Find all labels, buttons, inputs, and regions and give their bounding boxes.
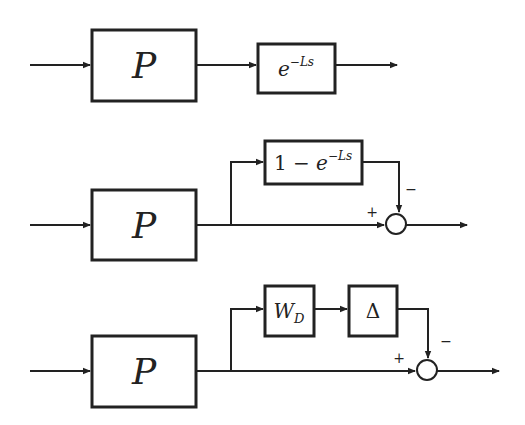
plus-sign: +	[393, 350, 405, 366]
branch-arrow	[231, 309, 263, 371]
plant-label: P	[131, 205, 157, 246]
block-diagram: P e−Ls P 1 − e−Ls + − P WD	[0, 0, 525, 425]
minus-sign: −	[405, 181, 417, 197]
summing-junction	[417, 360, 437, 380]
delta-label: Δ	[366, 299, 380, 323]
plant-label: P	[131, 351, 157, 392]
minus-sign: −	[440, 333, 452, 349]
plant-label: P	[131, 45, 157, 86]
summing-junction	[386, 214, 406, 234]
branch-arrow	[231, 162, 263, 225]
plus-sign: +	[366, 204, 378, 220]
row-uncertainty-model: P WD Δ + −	[30, 286, 499, 407]
row-delay-model: P e−Ls	[30, 30, 397, 101]
row-additive-delay-model: P 1 − e−Ls + −	[30, 141, 467, 260]
